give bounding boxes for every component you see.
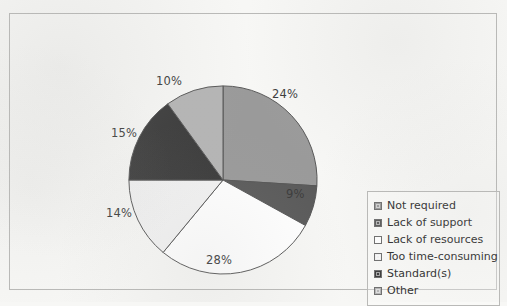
legend-item-standards[interactable]: Standard(s): [374, 265, 492, 282]
legend-swatch-icon-not-required: [374, 202, 382, 210]
legend-item-other[interactable]: Other: [374, 282, 492, 299]
legend-item-lack-of-resources[interactable]: Lack of resources: [374, 231, 492, 248]
data-label-too-time-consuming: 14%: [106, 206, 132, 220]
legend-swatch-icon-standards: [374, 270, 382, 278]
legend-label-not-required: Not required: [387, 199, 456, 212]
data-label-not-required: 24%: [272, 87, 298, 101]
pie-chart: [125, 82, 321, 278]
legend-label-too-time-consuming: Too time-consuming: [387, 250, 498, 263]
legend-label-lack-of-resources: Lack of resources: [387, 233, 483, 246]
legend-swatch-icon-too-time-consuming: [374, 253, 382, 261]
legend-swatch-icon-lack-of-resources: [374, 236, 382, 244]
legend-item-too-time-consuming[interactable]: Too time-consuming: [374, 248, 492, 265]
legend-item-lack-of-support[interactable]: Lack of support: [374, 214, 492, 231]
legend-label-standards: Standard(s): [387, 267, 451, 280]
plot-area: 24% 9% 28% 14% 15% 10% Not required Lack…: [10, 14, 496, 289]
pie-slice-not-required[interactable]: [223, 86, 317, 186]
data-label-lack-of-resources: 28%: [206, 253, 232, 267]
legend-item-not-required[interactable]: Not required: [374, 197, 492, 214]
legend-label-other: Other: [387, 284, 418, 297]
chart-frame: 24% 9% 28% 14% 15% 10% Not required Lack…: [9, 13, 497, 290]
legend-swatch-icon-other: [374, 287, 382, 295]
legend-swatch-icon-lack-of-support: [374, 219, 382, 227]
pie-chart-svg: [125, 82, 321, 278]
data-label-standards: 15%: [111, 126, 137, 140]
data-label-lack-of-support: 9%: [286, 187, 305, 201]
chart-legend: Not required Lack of support Lack of res…: [367, 191, 500, 306]
data-label-other: 10%: [156, 74, 182, 88]
legend-label-lack-of-support: Lack of support: [387, 216, 472, 229]
